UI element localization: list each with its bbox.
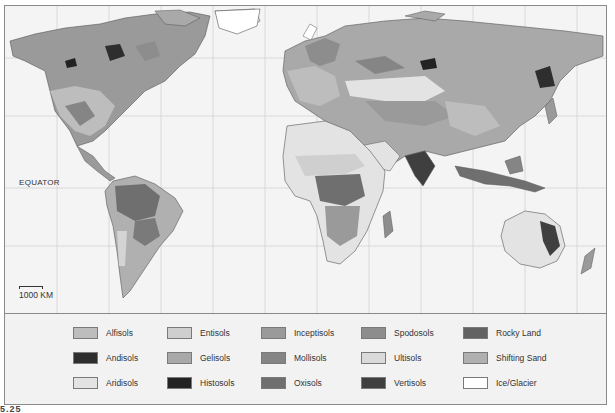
legend-item-vertisols: Vertisols — [361, 376, 426, 390]
legend: Alfisols Andisols Aridisols Entisols Gel… — [5, 314, 606, 404]
australia — [501, 211, 595, 274]
legend-item-entisols: Entisols — [167, 326, 230, 340]
figure-number-fragment: 5.25 — [0, 404, 22, 413]
legend-item-oxisols: Oxisols — [261, 376, 322, 390]
swatch-entisols — [167, 327, 192, 339]
north-america — [10, 9, 260, 181]
legend-item-rocky-land: Rocky Land — [463, 326, 541, 340]
swatch-mollisols — [261, 352, 286, 364]
legend-item-inceptisols: Inceptisols — [261, 326, 334, 340]
legend-item-aridisols: Aridisols — [73, 376, 138, 390]
swatch-inceptisols — [261, 327, 286, 339]
legend-item-ultisols: Ultisols — [361, 351, 421, 365]
swatch-andisols — [73, 352, 98, 364]
map-figure: Equator 1000 km Alfisols Andisols Aridis… — [4, 5, 607, 405]
legend-item-gelisols: Gelisols — [167, 351, 230, 365]
swatch-alfisols — [73, 327, 98, 339]
legend-item-andisols: Andisols — [73, 351, 138, 365]
swatch-oxisols — [261, 377, 286, 389]
world-map: Equator 1000 km — [5, 6, 606, 314]
legend-item-shifting-sand: Shifting Sand — [463, 351, 547, 365]
greenland — [215, 9, 260, 34]
scale-label: 1000 km — [19, 290, 53, 300]
swatch-gelisols — [167, 352, 192, 364]
south-america — [105, 176, 183, 298]
swatch-rocky-land — [463, 327, 488, 339]
legend-item-spodosols: Spodosols — [361, 326, 434, 340]
legend-item-alfisols: Alfisols — [73, 326, 133, 340]
swatch-aridisols — [73, 377, 98, 389]
equator-label: Equator — [19, 178, 60, 187]
swatch-spodosols — [361, 327, 386, 339]
swatch-ice-glacier — [463, 377, 488, 389]
legend-item-ice-glacier: Ice/Glacier — [463, 376, 537, 390]
swatch-histosols — [167, 377, 192, 389]
legend-item-mollisols: Mollisols — [261, 351, 327, 365]
swatch-shifting-sand — [463, 352, 488, 364]
swatch-ultisols — [361, 352, 386, 364]
map-graphic — [5, 6, 606, 313]
scale-bar — [19, 286, 43, 289]
swatch-vertisols — [361, 377, 386, 389]
southeast-asia — [455, 156, 545, 192]
legend-item-histosols: Histosols — [167, 376, 234, 390]
